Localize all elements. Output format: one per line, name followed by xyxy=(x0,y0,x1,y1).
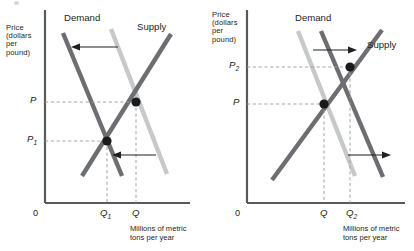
demand-curve-label: Demand xyxy=(295,13,331,23)
guide-lines xyxy=(247,67,350,203)
demand-shift-arrow-upper xyxy=(313,46,357,53)
demand-shift-arrow-lower xyxy=(112,151,156,158)
demand-shift-arrow-lower xyxy=(348,151,391,158)
y-axis-label: Price (dollars per pound) xyxy=(6,24,44,57)
panel-demand-decrease: Price (dollars per pound) Demand Supply … xyxy=(0,0,207,251)
quantity-tick-Q1: Q1 xyxy=(100,208,111,220)
supply-curve-label: Supply xyxy=(137,22,166,32)
guide-lines xyxy=(45,102,136,203)
panel-demand-increase: Price (dollars per pound) Demand Supply … xyxy=(207,0,414,251)
demand-curve-label: Demand xyxy=(64,13,100,23)
equilibrium-point-original xyxy=(319,99,328,108)
price-tick-P1: P1 xyxy=(27,134,37,146)
price-tick-P: P xyxy=(233,97,239,107)
equilibrium-point-new xyxy=(345,62,354,71)
price-tick-P2: P2 xyxy=(229,60,239,72)
x-axis-caption: Millions of metric tons per year xyxy=(343,224,414,243)
origin-label: 0 xyxy=(235,209,240,219)
y-axis-label: Price (dollars per pound) xyxy=(212,11,250,44)
origin-label: 0 xyxy=(33,209,38,219)
demand-shift-arrow-upper xyxy=(71,43,118,50)
equilibrium-point-original xyxy=(131,97,140,106)
quantity-tick-Q2: Q2 xyxy=(346,208,357,220)
price-tick-P: P xyxy=(30,95,36,105)
supply-curve-label: Supply xyxy=(367,40,396,50)
quantity-tick-Q: Q xyxy=(320,208,327,218)
quantity-tick-Q: Q xyxy=(132,208,139,218)
x-axis-caption: Millions of metric tons per year xyxy=(130,224,208,243)
equilibrium-point-new xyxy=(102,136,111,145)
